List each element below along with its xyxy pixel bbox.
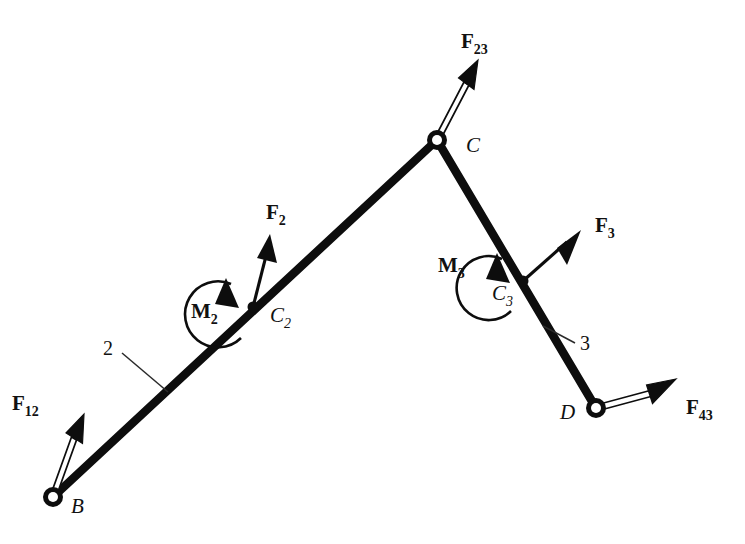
- joint-B: [43, 487, 63, 507]
- mass-center-C2-dot: [248, 302, 259, 313]
- joint-D: [586, 398, 606, 418]
- joint-C-label: C: [466, 133, 481, 157]
- link-group: [53, 140, 596, 497]
- force-F23-arrowhead: [459, 60, 479, 90]
- force-F43: [596, 379, 676, 411]
- force-F3-label: F3: [595, 213, 615, 241]
- joint-D-label: D: [559, 400, 575, 424]
- mass-center-C3-dot: [518, 276, 529, 287]
- mass-center-C2-label: C2: [270, 303, 291, 331]
- moment-M2-label: M2: [191, 299, 218, 327]
- link-2-label: 2: [103, 337, 113, 359]
- link-2-leader: [122, 353, 168, 392]
- force-F43-label: F43: [686, 395, 713, 423]
- force-F23: [435, 60, 479, 142]
- mass-center-C3-label: C3: [492, 281, 513, 309]
- link-2-bar: [53, 140, 437, 497]
- force-F3-arrowhead: [557, 230, 581, 265]
- force-F43-arrowhead: [647, 379, 677, 404]
- force-F23-label: F23: [461, 29, 488, 57]
- force-F3: [523, 230, 581, 281]
- joint-C: [427, 130, 447, 150]
- joint-B-label: B: [71, 494, 84, 518]
- moment-M3-label: M3: [438, 253, 465, 281]
- joint-B-inner: [48, 492, 58, 502]
- joint-D-inner: [591, 403, 601, 413]
- joint-C-inner: [432, 135, 442, 145]
- force-F12-arrowhead: [66, 414, 84, 444]
- force-F12-label: F12: [12, 391, 39, 419]
- free-body-diagram: B C D C2 C3 F12 F23 F43 F2 F3: [0, 0, 745, 544]
- link-3-label: 3: [580, 332, 590, 354]
- force-F2-arrowhead: [257, 234, 277, 263]
- diagram-canvas: B C D C2 C3 F12 F23 F43 F2 F3: [0, 0, 745, 544]
- force-F2-label: F2: [266, 200, 286, 228]
